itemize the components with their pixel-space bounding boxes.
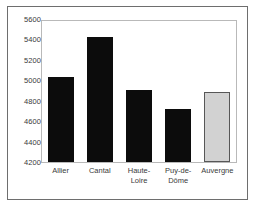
bars-layer xyxy=(41,20,237,163)
bar xyxy=(87,37,113,162)
bar-chart-figure: 56005400520050004800460044004200 AllierC… xyxy=(0,0,255,206)
bar xyxy=(204,92,230,163)
y-axis-tick-label: 4800 xyxy=(11,98,41,106)
y-axis-tick-label: 5600 xyxy=(11,16,41,24)
x-axis-tick-label: Haute- Loire xyxy=(119,166,158,185)
y-axis-tick-label: 4400 xyxy=(11,139,41,147)
x-axis: AllierCantalHaute- LoirePuy-de- DômeAuve… xyxy=(41,166,237,200)
bar xyxy=(126,90,152,162)
y-axis-tick-label: 5000 xyxy=(11,77,41,85)
x-axis-tick-label: Cantal xyxy=(80,166,119,176)
y-axis: 56005400520050004800460044004200 xyxy=(11,0,41,206)
bar xyxy=(48,77,74,162)
x-axis-tick-label: Auvergne xyxy=(198,166,237,176)
y-axis-tick-label: 4600 xyxy=(11,118,41,126)
y-axis-tick-label: 5400 xyxy=(11,36,41,44)
x-axis-tick-label: Puy-de- Dôme xyxy=(159,166,198,185)
y-axis-tick-label: 5200 xyxy=(11,57,41,65)
bar xyxy=(165,109,191,162)
x-axis-tick-label: Allier xyxy=(41,166,80,176)
y-axis-tick-label: 4200 xyxy=(11,159,41,167)
